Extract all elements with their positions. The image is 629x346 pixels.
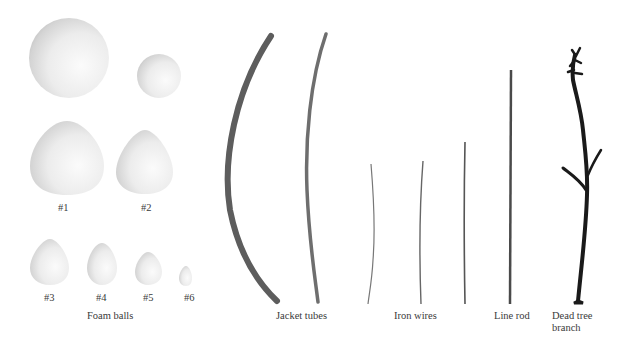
jacket-tubes-caption: Jacket tubes xyxy=(276,310,327,322)
iron-wire-2 xyxy=(420,161,423,304)
foam-cone-1 xyxy=(30,121,104,195)
foam-sphere-1 xyxy=(29,18,109,98)
foam-ball-label-5: #5 xyxy=(143,292,154,304)
line-rod xyxy=(510,70,511,304)
iron-wire-1 xyxy=(368,164,374,304)
foam-balls-caption: Foam balls xyxy=(87,310,133,322)
foam-ball-label-3: #3 xyxy=(44,292,55,304)
foam-sphere-2 xyxy=(137,54,181,98)
dead-tree-branch-caption-line2: branch xyxy=(552,322,581,334)
foam-ball-label-6: #6 xyxy=(184,292,195,304)
foam-ball-label-2: #2 xyxy=(141,202,152,214)
foam-ball-label-1: #1 xyxy=(58,202,69,214)
iron-wire-3 xyxy=(464,142,465,304)
foam-drop-5 xyxy=(135,252,162,285)
materials-illustration xyxy=(0,0,629,346)
iron-wires-caption: Iron wires xyxy=(394,310,437,322)
jacket-tube-thick xyxy=(228,36,277,301)
foam-ball-label-4: #4 xyxy=(96,292,107,304)
foam-drop-4 xyxy=(87,243,117,285)
foam-cone-2 xyxy=(116,130,173,194)
dead-tree-branch-caption-line1: Dead tree xyxy=(552,310,593,322)
foam-drop-3 xyxy=(30,239,69,285)
line-rod-caption: Line rod xyxy=(494,310,530,322)
foam-drop-6 xyxy=(179,266,192,286)
dead-tree-branch xyxy=(563,48,601,303)
jacket-tube-thin xyxy=(307,34,326,302)
